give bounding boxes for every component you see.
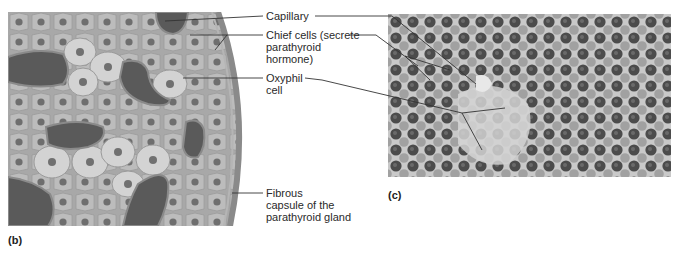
capillary-text: Capillary [266,10,309,22]
chief-cells-text-3: hormone) [266,53,360,65]
label-chief-cells: Chief cells (secrete parathyroid hormone… [266,29,360,65]
parathyroid-micrograph [388,14,671,177]
panel-letter-b: (b) [8,234,22,246]
capsule-text-2: capsule of the [266,199,351,211]
capsule-text-3: parathyroid gland [266,211,351,223]
label-capillary: Capillary [266,10,309,22]
label-fibrous-capsule: Fibrous capsule of the parathyroid gland [266,187,351,223]
oxyphil-text-2: cell [266,84,303,96]
panel-letter-c: (c) [388,189,401,201]
label-oxyphil-cell: Oxyphil cell [266,72,303,96]
illustration-graphic [8,12,246,226]
chief-cells-text-2: parathyroid [266,41,360,53]
oxyphil-text-1: Oxyphil [266,72,303,84]
chief-cells-text-1: Chief cells (secrete [266,29,360,41]
micrograph-graphic [388,14,671,177]
parathyroid-illustration [8,12,246,226]
capsule-text-1: Fibrous [266,187,351,199]
